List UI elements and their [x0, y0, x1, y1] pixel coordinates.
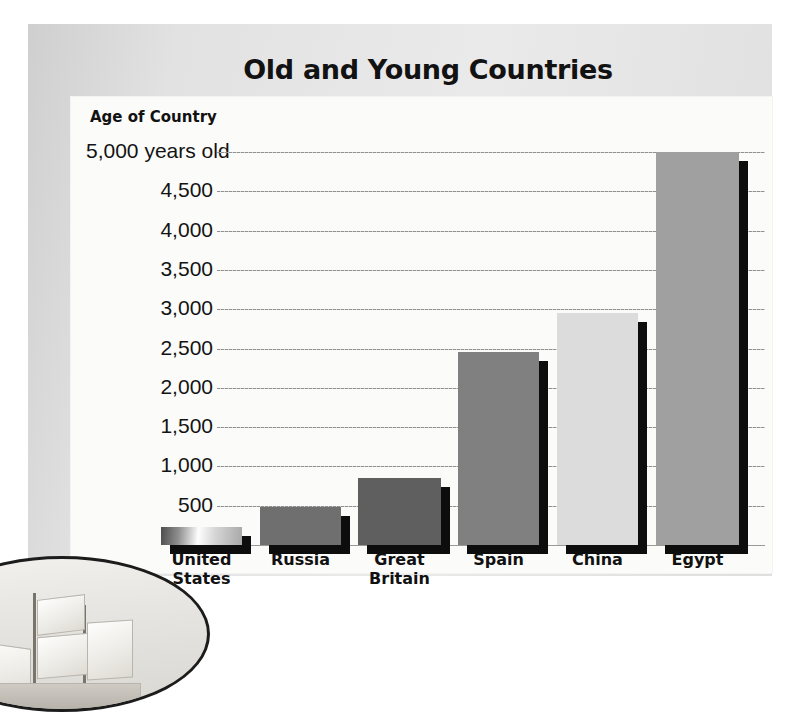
bar-spain[interactable] [458, 352, 539, 545]
chart-title: Old and Young Countries [56, 54, 792, 85]
category-label-line: China [543, 551, 652, 570]
x-axis-category-label: Spain [444, 551, 553, 570]
bar-group: Russia [260, 507, 341, 545]
bar-group: Spain [458, 352, 539, 545]
bar-shadow-right [441, 487, 450, 554]
bar-shadow-right [638, 322, 647, 554]
bar-shadow-right [739, 161, 748, 554]
category-label-line: Spain [444, 551, 553, 570]
bar-united-states[interactable] [161, 527, 242, 545]
category-label-line: Egypt [642, 551, 753, 570]
chart-plot-panel: Age of Country 5,000 years old4,5004,000… [70, 96, 773, 574]
category-label-line: Britain [344, 570, 455, 589]
bar-group: China [557, 313, 638, 545]
ship-sail-2 [37, 633, 89, 680]
bar-group: GreatBritain [358, 478, 441, 545]
x-axis-category-label: China [543, 551, 652, 570]
category-label-line: United [147, 551, 256, 570]
bar-group: UnitedStates [161, 527, 242, 545]
x-axis-category-label: Egypt [642, 551, 753, 570]
bar-china[interactable] [557, 313, 638, 545]
bars-layer: UnitedStatesRussiaGreatBritainSpainChina… [70, 96, 773, 574]
bar-great-britain[interactable] [358, 478, 441, 545]
bar-group: Egypt [656, 152, 739, 545]
bar-russia[interactable] [260, 507, 341, 545]
bar-egypt[interactable] [656, 152, 739, 545]
x-axis-category-label: Russia [246, 551, 355, 570]
category-label-line: Great [344, 551, 455, 570]
figure-frame: Old and Young Countries Age of Country 5… [28, 24, 772, 576]
ship-hull [0, 683, 141, 711]
x-axis-category-label: GreatBritain [344, 551, 455, 589]
category-label-line: Russia [246, 551, 355, 570]
ship-sail-4 [87, 619, 133, 680]
bar-shadow-right [539, 361, 548, 554]
ship-sail-1 [37, 594, 85, 636]
